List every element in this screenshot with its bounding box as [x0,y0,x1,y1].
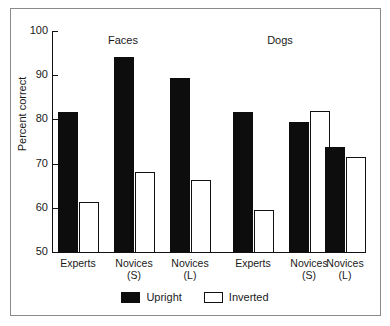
legend-label: Inverted [229,291,269,303]
group-title-faces: Faces [88,34,158,46]
bar-upright [289,122,309,252]
x-axis-category-label-line2: (L) [162,269,218,281]
x-axis-category-label-line1: Experts [235,257,271,269]
y-tick-100 [52,31,58,32]
x-axis-category-label-line1: Novices [171,257,208,269]
x-axis-category-label: Experts [50,257,106,269]
legend-swatch-upright-icon [121,292,140,303]
bar-inverted [346,157,366,253]
bar-inverted [135,172,155,253]
x-axis-category-label-line1: Novices [115,257,152,269]
legend-swatch-inverted-icon [204,292,223,303]
bar-upright [325,147,345,252]
bar-upright [58,112,78,252]
bar-upright [233,112,253,252]
y-tick-label-60: 60 [22,202,48,213]
y-tick-label-50: 50 [22,246,48,257]
legend-item: Inverted [204,291,269,303]
group-title-dogs: Dogs [245,34,315,46]
x-axis-category-label: Novices(L) [162,257,218,281]
bar-upright [170,78,190,252]
legend-label: Upright [146,291,181,303]
x-axis-category-label-line2: (S) [106,269,162,281]
bar-inverted [254,210,274,253]
x-axis-category-label-line2: (L) [317,269,373,281]
bar-upright [114,57,134,252]
x-axis-category-label: Novices(S) [106,257,162,281]
chart-legend: UprightInverted [0,291,390,303]
y-tick-90 [52,75,58,76]
legend-item: Upright [121,291,181,303]
y-axis-line [52,31,53,253]
y-axis-title: Percent correct [16,54,28,174]
x-axis-category-label-line1: Novices [326,257,363,269]
y-tick-label-100: 100 [22,25,48,36]
y-tick-50 [52,252,58,253]
bar-inverted [191,180,211,253]
bar-inverted [79,202,99,253]
x-axis-category-label: Experts [225,257,281,269]
x-axis-category-label: Novices(L) [317,257,373,281]
x-axis-category-label-line1: Experts [60,257,96,269]
